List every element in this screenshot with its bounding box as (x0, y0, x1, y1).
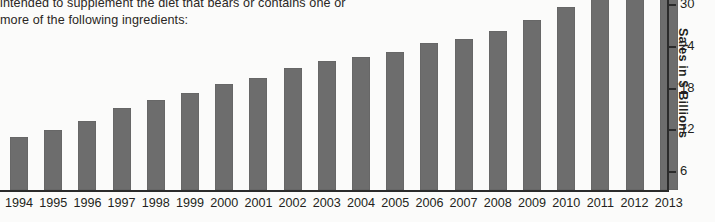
sales-bar-chart: 612182430 Sales in $ Billions 1994199519… (0, 0, 715, 222)
chart-plot-area (0, 0, 669, 190)
bar-2000 (215, 84, 233, 190)
bar-2007 (455, 39, 473, 191)
bar-1996 (78, 121, 96, 190)
bar-2009 (523, 20, 541, 190)
bar-2010 (557, 7, 575, 190)
y-axis-line (667, 0, 669, 192)
bar-1994 (10, 137, 28, 190)
bar-2005 (386, 52, 404, 190)
bar-2012 (626, 0, 644, 190)
bar-1999 (181, 93, 199, 190)
y-tick-mark-icon (669, 88, 676, 90)
y-tick-mark-icon (669, 129, 676, 131)
bar-1998 (147, 100, 165, 190)
bar-2008 (489, 31, 507, 190)
bar-2002 (284, 68, 302, 190)
bar-2004 (352, 57, 370, 190)
y-tick-mark-icon (669, 46, 676, 48)
y-tick-mark-icon (669, 171, 676, 173)
x-axis-label-group: 1994199519961997199819992000200120022003… (0, 196, 669, 218)
bar-2001 (249, 78, 267, 190)
bar-2006 (420, 43, 438, 190)
bar-1995 (44, 130, 62, 190)
y-axis-tick-label: 30 (680, 0, 694, 11)
y-tick-mark-icon (669, 4, 676, 6)
y-axis-title: Sales in $ Billions (676, 28, 690, 168)
bar-1997 (113, 108, 131, 190)
x-axis-label-2013: 2013 (649, 196, 689, 210)
bar-2003 (318, 61, 336, 190)
bar-2011 (591, 0, 609, 190)
x-axis-line (0, 190, 669, 192)
